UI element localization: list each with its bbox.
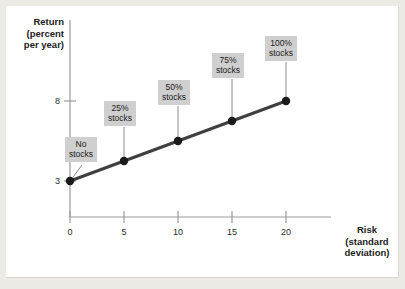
y-axis-title-line2: (percent	[0, 28, 64, 40]
callout-100-stocks-line1: 100%	[269, 38, 293, 48]
callout-75-stocks-line2: stocks	[216, 65, 240, 75]
figure-container: Return (percent per year) Risk (standard…	[0, 0, 405, 289]
callout-50-stocks-line1: 50%	[162, 82, 186, 92]
callout-no-stocks: No stocks	[65, 137, 97, 162]
x-tick-label-0: 0	[59, 227, 81, 237]
chart-area: Return (percent per year) Risk (standard…	[0, 0, 405, 289]
x-axis-title-main: Risk	[330, 224, 404, 236]
x-tick-label-20: 20	[275, 227, 297, 237]
callout-no-stocks-line2: stocks	[69, 149, 93, 159]
y-tick-label-3: 3	[44, 176, 60, 186]
data-point	[228, 117, 236, 125]
x-axis-title-sub1: (standard	[330, 236, 404, 248]
callout-75-stocks: 75% stocks	[212, 53, 244, 78]
x-tick-label-10: 10	[167, 227, 189, 237]
data-point	[174, 137, 182, 145]
data-point	[282, 97, 290, 105]
callout-25-stocks-line1: 25%	[108, 103, 132, 113]
data-point	[66, 177, 74, 185]
callout-50-stocks-line2: stocks	[162, 92, 186, 102]
callout-100-stocks-line2: stocks	[269, 48, 293, 58]
callout-100-stocks: 100% stocks	[265, 36, 297, 61]
callout-no-stocks-line1: No	[69, 139, 93, 149]
x-axis-title: Risk (standard deviation)	[330, 224, 404, 259]
callout-25-stocks: 25% stocks	[104, 101, 136, 126]
x-tick-label-5: 5	[113, 227, 135, 237]
y-axis-title-line1: Return	[0, 16, 64, 28]
data-point	[120, 157, 128, 165]
callout-25-stocks-line2: stocks	[108, 113, 132, 123]
x-axis-title-sub2: deviation)	[330, 247, 404, 259]
y-tick-label-8: 8	[44, 96, 60, 106]
callout-50-stocks: 50% stocks	[158, 80, 190, 105]
y-axis-title-line3: per year)	[0, 39, 64, 51]
x-tick-label-15: 15	[221, 227, 243, 237]
callout-75-stocks-line1: 75%	[216, 55, 240, 65]
y-axis-title: Return (percent per year)	[0, 16, 64, 51]
